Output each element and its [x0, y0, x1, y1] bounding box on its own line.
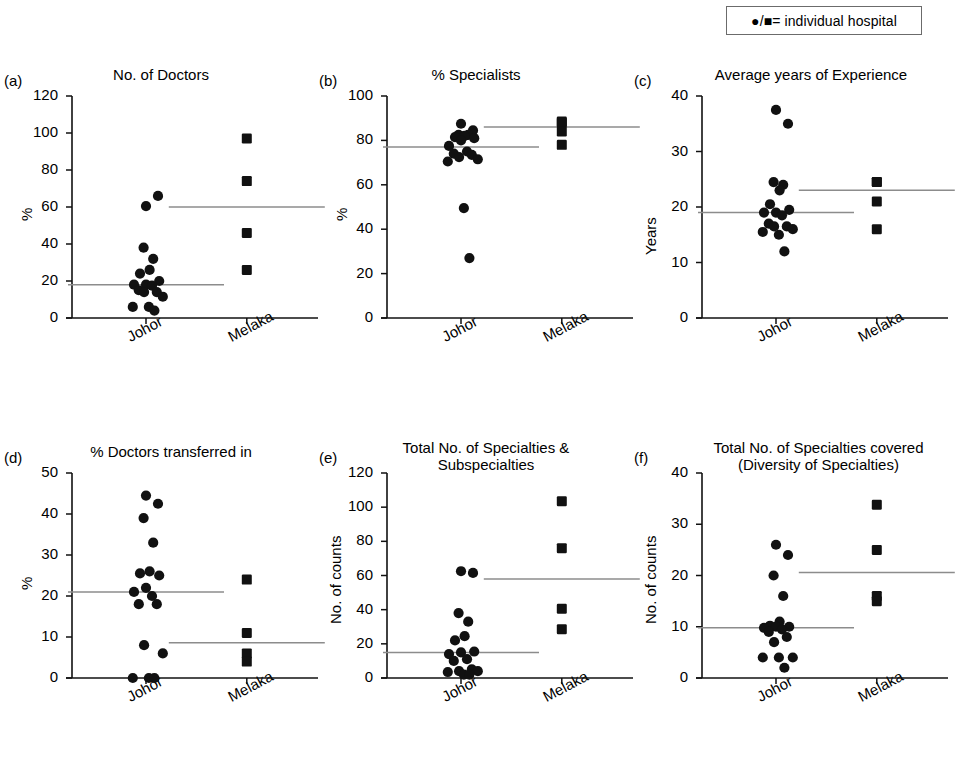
data-point-circle — [149, 306, 159, 316]
y-tick-label: 0 — [333, 308, 373, 325]
y-axis-label: Years — [642, 217, 659, 255]
data-point-square — [557, 118, 567, 128]
data-point-circle — [769, 637, 779, 647]
data-point-circle — [462, 654, 472, 664]
y-tick-label: 100 — [333, 86, 373, 103]
data-point-circle — [128, 302, 138, 312]
data-point-square — [872, 177, 882, 187]
y-tick-label: 0 — [648, 668, 688, 685]
data-point-circle — [141, 201, 151, 211]
plot-area — [379, 473, 633, 684]
data-point-circle — [774, 230, 784, 240]
panel-e: (e)Total No. of Specialties & Subspecial… — [319, 441, 629, 741]
data-point-circle — [153, 499, 163, 509]
data-point-circle — [456, 135, 466, 145]
y-tick-label: 10 — [648, 617, 688, 634]
y-tick-label: 20 — [648, 566, 688, 583]
data-point-circle — [454, 608, 464, 618]
y-tick-label: 20 — [333, 264, 373, 281]
data-point-square — [557, 543, 567, 553]
data-point-square — [557, 140, 567, 150]
data-point-circle — [469, 646, 479, 656]
data-point-circle — [139, 243, 149, 253]
data-point-circle — [782, 632, 792, 642]
y-tick-label: 40 — [18, 504, 58, 521]
data-point-circle — [141, 583, 151, 593]
data-point-circle — [128, 673, 138, 683]
data-point-circle — [148, 254, 158, 264]
plot-area — [64, 96, 318, 324]
y-tick-label: 10 — [18, 627, 58, 644]
data-point-square — [872, 596, 882, 606]
data-point-circle — [473, 154, 483, 164]
data-point-circle — [456, 566, 466, 576]
data-point-circle — [783, 119, 793, 129]
data-point-circle — [153, 191, 163, 201]
plot-area — [694, 473, 948, 684]
y-tick-label: 0 — [18, 308, 58, 325]
panel-title: Total No. of Specialties covered (Divers… — [676, 439, 959, 474]
data-point-circle — [148, 538, 158, 548]
panel-f: (f)Total No. of Specialties covered (Div… — [634, 441, 944, 741]
data-point-circle — [464, 253, 474, 263]
panel-title: % Specialists — [361, 66, 591, 83]
y-tick-label: 30 — [18, 545, 58, 562]
y-tick-label: 40 — [333, 600, 373, 617]
panel-title: No. of Doctors — [46, 66, 276, 83]
plot-area — [64, 473, 318, 684]
panel-d: (d)% Doctors transferred in%01020304050J… — [4, 441, 314, 741]
y-tick-label: 40 — [18, 234, 58, 251]
data-point-circle — [771, 540, 781, 550]
data-point-square — [557, 496, 567, 506]
panel-title: % Doctors transferred in — [46, 443, 296, 460]
data-point-square — [557, 127, 567, 137]
y-tick-label: 20 — [333, 634, 373, 651]
data-point-circle — [145, 566, 155, 576]
panel-tag: (f) — [634, 449, 648, 466]
y-tick-label: 100 — [18, 123, 58, 140]
y-tick-label: 120 — [333, 463, 373, 480]
y-tick-label: 20 — [648, 197, 688, 214]
data-point-circle — [778, 591, 788, 601]
data-point-square — [557, 604, 567, 614]
data-point-square — [242, 228, 252, 238]
data-point-circle — [464, 669, 474, 679]
data-point-circle — [777, 210, 787, 220]
data-point-circle — [450, 635, 460, 645]
data-point-circle — [469, 133, 479, 143]
data-point-square — [872, 545, 882, 555]
data-point-circle — [152, 599, 162, 609]
data-point-circle — [779, 663, 789, 673]
panel-title: Average years of Experience — [676, 66, 946, 83]
data-point-circle — [460, 631, 470, 641]
data-point-circle — [758, 227, 768, 237]
y-tick-label: 30 — [648, 142, 688, 159]
data-point-circle — [771, 105, 781, 115]
data-point-circle — [145, 265, 155, 275]
y-tick-label: 60 — [18, 197, 58, 214]
data-point-circle — [774, 652, 784, 662]
data-point-circle — [443, 156, 453, 166]
y-tick-label: 100 — [333, 497, 373, 514]
plot-area — [694, 96, 948, 324]
panel-title: Total No. of Specialties & Subspecialtie… — [361, 439, 611, 474]
y-tick-label: 30 — [648, 514, 688, 531]
y-tick-label: 80 — [333, 130, 373, 147]
y-tick-label: 10 — [648, 253, 688, 270]
y-tick-label: 0 — [18, 668, 58, 685]
data-point-circle — [149, 673, 159, 683]
data-point-circle — [759, 207, 769, 217]
data-point-square — [242, 265, 252, 275]
y-tick-label: 80 — [18, 160, 58, 177]
panel-c: (c)Average years of ExperienceYears01020… — [634, 64, 944, 364]
y-tick-label: 60 — [333, 566, 373, 583]
data-point-circle — [139, 640, 149, 650]
data-point-square — [872, 224, 882, 234]
data-point-square — [242, 134, 252, 144]
data-point-circle — [468, 568, 478, 578]
y-tick-label: 40 — [648, 463, 688, 480]
data-point-square — [242, 657, 252, 667]
data-point-circle — [788, 652, 798, 662]
panel-a: (a)No. of Doctors%020406080100120JohorMe… — [4, 64, 314, 364]
y-tick-label: 0 — [333, 668, 373, 685]
